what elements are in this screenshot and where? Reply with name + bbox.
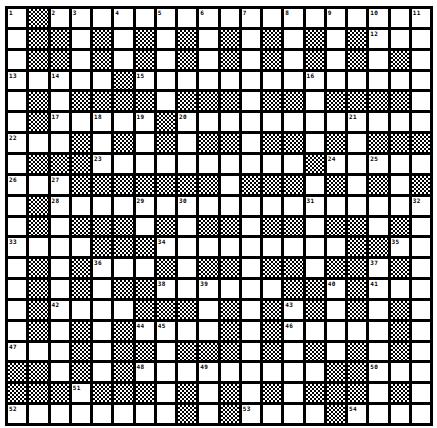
answer-cell[interactable] bbox=[29, 176, 47, 194]
answer-cell[interactable] bbox=[72, 51, 90, 69]
answer-cell[interactable] bbox=[284, 343, 302, 361]
answer-cell[interactable] bbox=[221, 72, 239, 90]
answer-cell[interactable]: 25 bbox=[369, 155, 387, 173]
answer-cell[interactable] bbox=[242, 218, 260, 236]
answer-cell[interactable] bbox=[242, 384, 260, 402]
answer-cell[interactable] bbox=[263, 197, 281, 215]
answer-cell[interactable] bbox=[199, 405, 217, 423]
answer-cell[interactable] bbox=[348, 134, 366, 152]
answer-cell[interactable] bbox=[93, 405, 111, 423]
answer-cell[interactable] bbox=[93, 280, 111, 298]
answer-cell[interactable]: 8 bbox=[284, 9, 302, 27]
answer-cell[interactable]: 21 bbox=[348, 113, 366, 131]
answer-cell[interactable] bbox=[114, 301, 132, 319]
answer-cell[interactable] bbox=[178, 72, 196, 90]
answer-cell[interactable] bbox=[391, 155, 409, 173]
answer-cell[interactable] bbox=[242, 92, 260, 110]
answer-cell[interactable] bbox=[412, 363, 430, 381]
answer-cell[interactable] bbox=[178, 280, 196, 298]
answer-cell[interactable] bbox=[348, 72, 366, 90]
answer-cell[interactable]: 1 bbox=[8, 9, 26, 27]
answer-cell[interactable] bbox=[263, 238, 281, 256]
answer-cell[interactable]: 7 bbox=[242, 9, 260, 27]
answer-cell[interactable]: 27 bbox=[51, 176, 69, 194]
answer-cell[interactable] bbox=[412, 343, 430, 361]
answer-cell[interactable] bbox=[157, 51, 175, 69]
answer-cell[interactable] bbox=[157, 363, 175, 381]
answer-cell[interactable]: 47 bbox=[8, 343, 26, 361]
answer-cell[interactable] bbox=[284, 384, 302, 402]
answer-cell[interactable] bbox=[72, 301, 90, 319]
answer-cell[interactable] bbox=[8, 301, 26, 319]
answer-cell[interactable] bbox=[284, 363, 302, 381]
answer-cell[interactable] bbox=[199, 301, 217, 319]
answer-cell[interactable] bbox=[412, 384, 430, 402]
answer-cell[interactable] bbox=[284, 113, 302, 131]
answer-cell[interactable] bbox=[306, 176, 324, 194]
answer-cell[interactable] bbox=[72, 405, 90, 423]
answer-cell[interactable] bbox=[221, 238, 239, 256]
answer-cell[interactable] bbox=[8, 259, 26, 277]
answer-cell[interactable] bbox=[412, 280, 430, 298]
answer-cell[interactable] bbox=[369, 405, 387, 423]
answer-cell[interactable] bbox=[284, 405, 302, 423]
answer-cell[interactable]: 51 bbox=[72, 384, 90, 402]
answer-cell[interactable] bbox=[51, 322, 69, 340]
answer-cell[interactable] bbox=[412, 113, 430, 131]
answer-cell[interactable] bbox=[8, 51, 26, 69]
answer-cell[interactable]: 3 bbox=[72, 9, 90, 27]
answer-cell[interactable]: 22 bbox=[8, 134, 26, 152]
answer-cell[interactable] bbox=[391, 280, 409, 298]
answer-cell[interactable]: 5 bbox=[157, 9, 175, 27]
answer-cell[interactable] bbox=[93, 363, 111, 381]
answer-cell[interactable]: 31 bbox=[306, 197, 324, 215]
answer-cell[interactable] bbox=[72, 113, 90, 131]
answer-cell[interactable] bbox=[412, 238, 430, 256]
answer-cell[interactable] bbox=[199, 72, 217, 90]
answer-cell[interactable] bbox=[136, 155, 154, 173]
answer-cell[interactable] bbox=[327, 30, 345, 48]
answer-cell[interactable] bbox=[412, 301, 430, 319]
answer-cell[interactable] bbox=[306, 238, 324, 256]
answer-cell[interactable] bbox=[51, 405, 69, 423]
answer-cell[interactable] bbox=[242, 363, 260, 381]
answer-cell[interactable] bbox=[114, 155, 132, 173]
answer-cell[interactable] bbox=[178, 155, 196, 173]
answer-cell[interactable] bbox=[221, 363, 239, 381]
answer-cell[interactable] bbox=[114, 30, 132, 48]
answer-cell[interactable] bbox=[348, 176, 366, 194]
answer-cell[interactable]: 28 bbox=[51, 197, 69, 215]
answer-cell[interactable]: 23 bbox=[93, 155, 111, 173]
answer-cell[interactable] bbox=[199, 322, 217, 340]
answer-cell[interactable] bbox=[29, 134, 47, 152]
answer-cell[interactable] bbox=[51, 280, 69, 298]
answer-cell[interactable] bbox=[93, 197, 111, 215]
answer-cell[interactable] bbox=[306, 218, 324, 236]
answer-cell[interactable] bbox=[306, 322, 324, 340]
answer-cell[interactable]: 14 bbox=[51, 72, 69, 90]
answer-cell[interactable] bbox=[391, 9, 409, 27]
answer-cell[interactable] bbox=[178, 9, 196, 27]
answer-cell[interactable] bbox=[157, 384, 175, 402]
answer-cell[interactable]: 19 bbox=[136, 113, 154, 131]
answer-cell[interactable] bbox=[263, 72, 281, 90]
answer-cell[interactable]: 36 bbox=[93, 259, 111, 277]
answer-cell[interactable] bbox=[369, 113, 387, 131]
answer-cell[interactable] bbox=[327, 51, 345, 69]
answer-cell[interactable] bbox=[8, 280, 26, 298]
answer-cell[interactable] bbox=[263, 113, 281, 131]
answer-cell[interactable] bbox=[263, 280, 281, 298]
answer-cell[interactable]: 18 bbox=[93, 113, 111, 131]
answer-cell[interactable] bbox=[221, 197, 239, 215]
answer-cell[interactable] bbox=[199, 238, 217, 256]
answer-cell[interactable] bbox=[412, 30, 430, 48]
answer-cell[interactable] bbox=[93, 134, 111, 152]
answer-cell[interactable] bbox=[391, 176, 409, 194]
answer-cell[interactable]: 45 bbox=[157, 322, 175, 340]
answer-cell[interactable] bbox=[93, 9, 111, 27]
answer-cell[interactable]: 6 bbox=[199, 9, 217, 27]
answer-cell[interactable]: 41 bbox=[369, 280, 387, 298]
answer-cell[interactable] bbox=[327, 113, 345, 131]
answer-cell[interactable] bbox=[348, 197, 366, 215]
answer-cell[interactable] bbox=[327, 238, 345, 256]
